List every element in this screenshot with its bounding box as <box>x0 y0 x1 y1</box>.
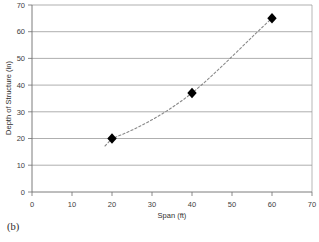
y-tick-label-0: 0 <box>21 188 25 197</box>
x-tick-label-50: 50 <box>228 200 236 209</box>
y-tick-label-40: 40 <box>17 81 25 90</box>
x-tick-label-60: 60 <box>268 200 276 209</box>
y-tick-label-10: 10 <box>17 161 25 170</box>
y-axis-ticks <box>28 5 32 192</box>
x-tick-label-30: 30 <box>148 200 156 209</box>
figure-caption: (b) <box>7 221 19 232</box>
y-tick-label-60: 60 <box>17 27 25 36</box>
x-tick-label-20: 20 <box>108 200 116 209</box>
x-tick-label-10: 10 <box>68 200 76 209</box>
y-tick-label-50: 50 <box>17 54 25 63</box>
y-tick-label-20: 20 <box>17 134 25 143</box>
figure-container: 70 60 50 40 30 20 10 0 0 10 20 30 40 50 … <box>0 0 319 242</box>
x-axis-ticks <box>32 192 312 196</box>
scatter-chart: 70 60 50 40 30 20 10 0 0 10 20 30 40 50 … <box>0 0 319 242</box>
x-tick-label-70: 70 <box>308 200 316 209</box>
x-axis-title: Span (ft) <box>158 211 187 220</box>
plot-background <box>32 5 312 192</box>
y-tick-label-30: 30 <box>17 108 25 117</box>
y-tick-label-70: 70 <box>17 1 25 10</box>
y-axis-title: Depth of Structure (in) <box>4 61 13 135</box>
x-axis-tick-labels: 0 10 20 30 40 50 60 70 <box>30 200 316 209</box>
x-tick-label-40: 40 <box>188 200 196 209</box>
x-tick-label-0: 0 <box>30 200 34 209</box>
y-axis-tick-labels: 70 60 50 40 30 20 10 0 <box>17 1 25 197</box>
